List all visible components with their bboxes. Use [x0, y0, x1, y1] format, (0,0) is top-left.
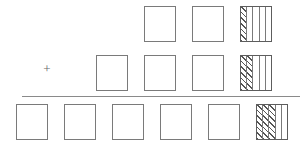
- whole-unit-square: [96, 55, 128, 91]
- fraction-part-empty: [266, 56, 271, 90]
- fraction-part-empty: [282, 105, 287, 139]
- fraction-square-one-fifth: [240, 6, 272, 42]
- whole-unit-square: [144, 6, 176, 42]
- sum-row: [0, 104, 308, 142]
- fraction-square-two-fifths: [240, 55, 272, 91]
- sum-rule-line: [22, 96, 300, 97]
- fraction-square-three-fifths: [256, 104, 288, 140]
- whole-unit-square: [192, 55, 224, 91]
- whole-unit-square: [192, 6, 224, 42]
- addend-1-row: [0, 6, 308, 44]
- whole-unit-square: [64, 104, 96, 140]
- fraction-part-empty: [266, 7, 271, 41]
- addend-2-row: [0, 55, 308, 93]
- area-model-diagram: +: [0, 0, 308, 152]
- whole-unit-square: [112, 104, 144, 140]
- whole-unit-square: [16, 104, 48, 140]
- whole-unit-square: [208, 104, 240, 140]
- whole-unit-square: [160, 104, 192, 140]
- whole-unit-square: [144, 55, 176, 91]
